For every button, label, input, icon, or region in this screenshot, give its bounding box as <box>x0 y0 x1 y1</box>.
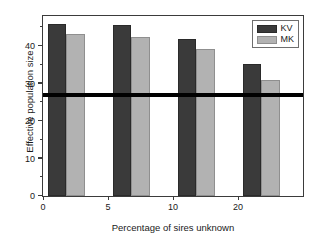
y-tick <box>38 157 43 158</box>
x-tick-label: 20 <box>233 202 243 212</box>
y-tick-label: 0 <box>11 191 35 201</box>
y-tick-minor <box>40 26 43 27</box>
bar-mk-0 <box>66 34 85 196</box>
y-tick <box>38 82 43 83</box>
x-tick-label: 10 <box>168 202 178 212</box>
y-tick-label: 40 <box>11 41 35 51</box>
legend-item: MK <box>257 35 295 44</box>
plot-area: 010203040 051020 KV MK <box>42 15 304 197</box>
y-tick <box>38 120 43 121</box>
y-tick-minor <box>40 101 43 102</box>
y-tick <box>38 45 43 46</box>
y-tick-minor <box>40 176 43 177</box>
y-tick-label: 10 <box>11 154 35 164</box>
x-tick-label: 0 <box>40 202 45 212</box>
x-tick <box>43 196 44 200</box>
bar-kv-0 <box>48 24 67 197</box>
reference-line <box>43 93 303 97</box>
y-tick-label: 30 <box>11 79 35 89</box>
legend-item: KV <box>257 24 295 33</box>
x-axis-title: Percentage of sires unknown <box>38 222 308 233</box>
bar-mk-10 <box>196 49 215 196</box>
x-tick <box>108 196 109 200</box>
y-tick-label: 20 <box>11 116 35 126</box>
legend-label-mk: MK <box>281 35 295 44</box>
legend-swatch-mk <box>257 36 277 44</box>
bar-kv-20 <box>243 64 262 196</box>
x-tick <box>173 196 174 200</box>
legend: KV MK <box>252 20 300 48</box>
legend-label-kv: KV <box>281 24 293 33</box>
bar-mk-20 <box>261 80 280 196</box>
x-tick <box>238 196 239 200</box>
bar-kv-10 <box>178 39 197 197</box>
bar-mk-5 <box>131 37 150 196</box>
bar-kv-5 <box>113 25 132 196</box>
y-tick-minor <box>40 139 43 140</box>
legend-swatch-kv <box>257 25 277 33</box>
x-tick-label: 5 <box>105 202 110 212</box>
bar-chart-figure: Effective population size Percentage of … <box>0 0 319 242</box>
y-tick-minor <box>40 64 43 65</box>
